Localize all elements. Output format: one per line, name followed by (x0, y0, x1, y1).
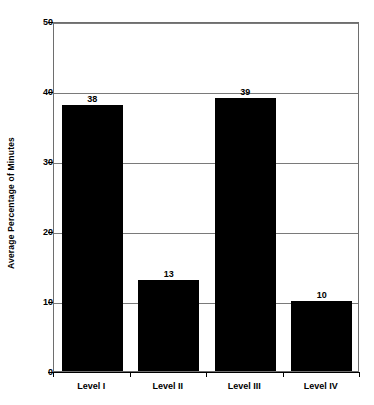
x-tick-mark (206, 372, 207, 377)
x-category-label: Level I (77, 381, 105, 391)
x-tick-mark (130, 372, 131, 377)
bar-chart: Average Percentage of Minutes 0102030405… (0, 0, 374, 405)
y-axis-ticks: 01020304050 (20, 22, 53, 372)
plot-area: 38133910 (53, 22, 359, 372)
x-tick-mark (283, 372, 284, 377)
x-category-label: Level III (228, 381, 261, 391)
bar[interactable] (215, 98, 276, 371)
bar[interactable] (291, 301, 352, 371)
bars-layer: 38133910 (54, 23, 358, 371)
bar-value-label: 13 (149, 269, 189, 279)
x-tick-mark (53, 372, 54, 377)
y-axis-title-text: Average Percentage of Minutes (6, 136, 16, 268)
x-category-label: Level IV (304, 381, 338, 391)
x-category-label: Level II (152, 381, 183, 391)
y-axis-title: Average Percentage of Minutes (0, 0, 22, 405)
bar[interactable] (138, 280, 199, 371)
bar-value-label: 38 (72, 94, 112, 104)
x-tick-mark (359, 372, 360, 377)
bar[interactable] (62, 105, 123, 371)
bar-value-label: 10 (302, 290, 342, 300)
bar-value-label: 39 (225, 87, 265, 97)
